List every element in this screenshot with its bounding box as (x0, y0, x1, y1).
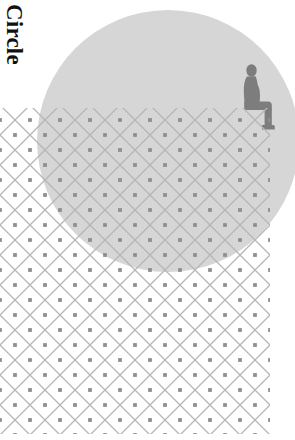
artwork-canvas: Circle (0, 0, 295, 440)
chain-link-fence (0, 0, 295, 440)
page-title: Circle (3, 4, 26, 65)
